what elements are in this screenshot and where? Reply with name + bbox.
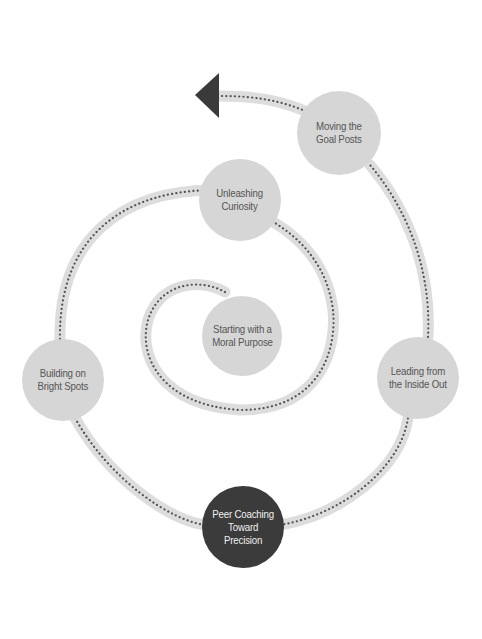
node-unleashing-curiosity: Unleashing Curiosity <box>199 159 281 241</box>
node-label: Starting with a Moral Purpose <box>212 323 273 349</box>
node-label: Moving the Goal Posts <box>316 120 362 146</box>
node-label: Building on Bright Spots <box>38 367 89 393</box>
arrow-head-icon <box>195 73 219 118</box>
node-label: Unleashing Curiosity <box>217 187 264 213</box>
node-moving-the-goal-posts: Moving the Goal Posts <box>297 91 381 175</box>
node-building-on-bright-spots: Building on Bright Spots <box>22 339 104 421</box>
node-peer-coaching-toward-precision: Peer Coaching Toward Precision <box>202 486 284 568</box>
node-label: Leading from the Inside Out <box>389 365 447 391</box>
node-label: Peer Coaching Toward Precision <box>212 508 274 547</box>
node-starting-with-a-moral-purpose: Starting with a Moral Purpose <box>202 296 282 376</box>
spiral-diagram: Starting with a Moral Purpose Unleashing… <box>0 0 482 639</box>
node-leading-from-the-inside-out: Leading from the Inside Out <box>377 337 459 419</box>
